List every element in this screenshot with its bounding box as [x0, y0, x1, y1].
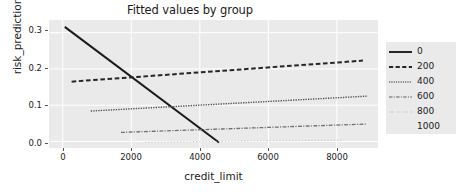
x-tick-label: 4000 [180, 152, 220, 162]
x-tick-mark [131, 148, 132, 151]
chart-figure: Fitted values by group risk_prediction c… [0, 0, 461, 194]
legend-line-swatch [389, 47, 412, 57]
legend-label: 400 [417, 77, 434, 86]
y-tick-mark [45, 68, 48, 69]
x-tick-mark [337, 148, 338, 151]
legend-line-swatch [389, 77, 412, 87]
legend-item[interactable]: 200 [386, 59, 456, 74]
series-line [91, 96, 367, 111]
legend-line-swatch [389, 107, 412, 117]
chart-legend: 0 200 400 600 800 1000 [386, 42, 456, 134]
series-line [121, 124, 366, 132]
y-tick-label: 0.1 [14, 100, 42, 110]
legend-item[interactable]: 600 [386, 89, 456, 104]
legend-line-swatch [389, 122, 412, 132]
x-tick-mark [268, 148, 269, 151]
y-tick-label: 0.3 [14, 25, 42, 35]
legend-label: 0 [417, 47, 423, 56]
y-tick-mark [45, 105, 48, 106]
legend-label: 600 [417, 92, 434, 101]
legend-label: 200 [417, 62, 434, 71]
legend-line-swatch [389, 62, 412, 72]
plot-area [49, 20, 378, 148]
x-tick-label: 8000 [317, 152, 357, 162]
legend-line-swatch [389, 92, 412, 102]
legend-item[interactable]: 0 [386, 44, 456, 59]
y-tick-label: 0.2 [14, 63, 42, 73]
x-tick-mark [200, 148, 201, 151]
series-lines [65, 27, 367, 143]
y-axis-label: risk_prediction [11, 0, 23, 101]
x-tick-mark [63, 148, 64, 151]
y-tick-mark [45, 30, 48, 31]
y-tick-mark [45, 143, 48, 144]
legend-label: 1000 [417, 122, 440, 131]
chart-title: Fitted values by group [0, 3, 380, 17]
x-axis-label: credit_limit [49, 170, 378, 182]
legend-item[interactable]: 400 [386, 74, 456, 89]
y-tick-label: 0.0 [14, 138, 42, 148]
legend-item[interactable]: 1000 [386, 119, 456, 134]
x-tick-label: 0 [43, 152, 83, 162]
legend-item[interactable]: 800 [386, 104, 456, 119]
plot-svg [49, 20, 378, 148]
series-line [65, 27, 219, 143]
x-tick-label: 6000 [248, 152, 288, 162]
x-tick-label: 2000 [111, 152, 151, 162]
legend-label: 800 [417, 107, 434, 116]
